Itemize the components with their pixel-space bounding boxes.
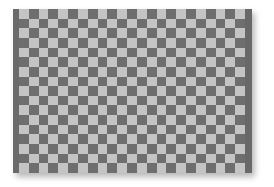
light-square <box>117 86 127 96</box>
light-square <box>166 19 176 29</box>
light-square <box>78 67 88 77</box>
dark-square <box>225 28 235 38</box>
light-square <box>127 57 137 67</box>
light-square <box>216 144 226 154</box>
dark-square <box>225 9 235 19</box>
light-square <box>68 57 78 67</box>
light-square <box>206 134 216 144</box>
light-square <box>216 163 226 173</box>
checkerboard-panel <box>13 9 252 173</box>
light-square <box>58 86 68 96</box>
dark-square <box>206 163 216 173</box>
dark-square <box>225 144 235 154</box>
dark-square <box>58 96 68 106</box>
light-square <box>196 67 206 77</box>
light-square <box>19 67 29 77</box>
light-square <box>157 9 167 19</box>
light-square <box>216 67 226 77</box>
dark-square <box>117 57 127 67</box>
light-square <box>157 86 167 96</box>
dark-square <box>216 115 226 125</box>
dark-square <box>107 9 117 19</box>
light-square <box>68 115 78 125</box>
light-square <box>29 77 39 87</box>
light-square <box>78 125 88 135</box>
dark-square <box>186 163 196 173</box>
light-square <box>206 57 216 67</box>
dark-square <box>78 38 88 48</box>
light-square <box>107 96 117 106</box>
dark-square <box>68 86 78 96</box>
dark-square <box>206 67 216 77</box>
dark-square <box>107 105 117 115</box>
dark-square <box>68 144 78 154</box>
light-square <box>186 77 196 87</box>
light-square <box>166 154 176 164</box>
dark-square <box>225 48 235 58</box>
dark-square <box>206 144 216 154</box>
dark-square <box>176 19 186 29</box>
light-square <box>186 134 196 144</box>
light-square <box>235 105 245 115</box>
light-square <box>58 28 68 38</box>
light-square <box>127 19 137 29</box>
light-square <box>186 154 196 164</box>
light-square <box>235 125 245 135</box>
dark-square <box>216 57 226 67</box>
light-square <box>58 125 68 135</box>
dark-square <box>78 77 88 87</box>
light-square <box>78 163 88 173</box>
dark-square <box>137 115 147 125</box>
right-edge-strip <box>245 9 252 173</box>
light-square <box>235 9 245 19</box>
light-square <box>186 19 196 29</box>
light-square <box>137 144 147 154</box>
light-square <box>176 9 186 19</box>
light-square <box>39 9 49 19</box>
dark-square <box>176 77 186 87</box>
dark-square <box>88 105 98 115</box>
dark-square <box>48 105 58 115</box>
dark-square <box>176 154 186 164</box>
dark-square <box>68 28 78 38</box>
dark-square <box>166 67 176 77</box>
dark-square <box>39 134 49 144</box>
light-square <box>88 154 98 164</box>
light-square <box>235 28 245 38</box>
dark-square <box>186 48 196 58</box>
light-square <box>107 19 117 29</box>
dark-square <box>147 86 157 96</box>
light-square <box>137 86 147 96</box>
light-square <box>107 134 117 144</box>
light-square <box>147 154 157 164</box>
dark-square <box>48 9 58 19</box>
dark-square <box>127 28 137 38</box>
light-square <box>68 77 78 87</box>
light-square <box>117 125 127 135</box>
dark-square <box>196 134 206 144</box>
dark-square <box>107 144 117 154</box>
dark-square <box>166 86 176 96</box>
light-square <box>147 115 157 125</box>
dark-square <box>147 67 157 77</box>
dark-square <box>117 154 127 164</box>
dark-square <box>206 28 216 38</box>
dark-square <box>107 163 117 173</box>
light-square <box>166 96 176 106</box>
dark-square <box>29 125 39 135</box>
dark-square <box>166 125 176 135</box>
light-square <box>88 19 98 29</box>
dark-square <box>29 163 39 173</box>
dark-square <box>176 96 186 106</box>
light-square <box>186 57 196 67</box>
dark-square <box>147 28 157 38</box>
light-square <box>48 19 58 29</box>
dark-square <box>166 105 176 115</box>
light-square <box>147 134 157 144</box>
light-square <box>98 28 108 38</box>
dark-square <box>176 115 186 125</box>
light-square <box>225 57 235 67</box>
dark-square <box>196 115 206 125</box>
dark-square <box>98 154 108 164</box>
light-square <box>196 125 206 135</box>
